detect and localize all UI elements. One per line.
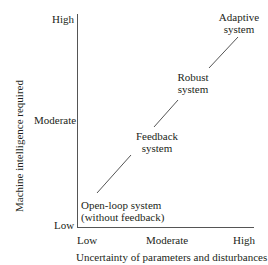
node-feedback-line1: Feedback [133,130,181,142]
node-open-loop-line1: Open-loop system [81,199,164,211]
y-tick-moderate: Moderate [34,114,76,126]
y-tick-high: High [52,13,74,25]
node-feedback-line2: system [133,142,181,154]
x-axis-label: Uncertainty of parameters and disturbanc… [76,251,267,263]
node-open-loop: Open-loop system (without feedback) [81,199,164,223]
x-tick-high: High [233,234,255,246]
node-open-loop-line2: (without feedback) [81,211,164,223]
node-feedback: Feedback system [133,130,181,154]
node-robust: Robust system [171,71,215,95]
node-robust-line1: Robust [171,71,215,83]
node-robust-line2: system [171,83,215,95]
y-axis-label: Machine intelligence required [13,80,25,212]
y-tick-low: Low [54,219,74,231]
node-adaptive: Adaptive system [214,11,264,35]
connector-feedback-robust [154,100,178,127]
x-tick-low: Low [77,234,97,246]
node-adaptive-line1: Adaptive [214,11,264,23]
connector-openloop-feedback [97,155,131,193]
x-tick-moderate: Moderate [146,234,188,246]
connector-robust-adaptive [209,37,238,68]
node-adaptive-line2: system [214,23,264,35]
